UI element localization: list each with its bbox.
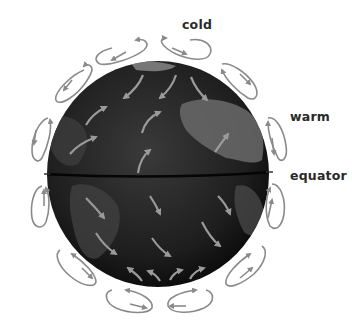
diagram-graphic <box>0 0 352 333</box>
circulation-cell <box>168 290 213 312</box>
circulation-cell <box>268 118 286 161</box>
circulation-cell <box>96 40 147 65</box>
label-equator: equator <box>290 168 347 183</box>
earth-globe <box>44 61 273 287</box>
circulation-cell <box>106 290 152 313</box>
circulation-cell <box>161 38 210 59</box>
label-warm: warm <box>290 109 330 124</box>
circulation-diagram: cold warm equator <box>0 0 352 333</box>
circulation-cell <box>266 184 284 228</box>
label-cold: cold <box>182 17 212 32</box>
circulation-cell <box>31 186 49 227</box>
circulation-cell <box>32 118 51 161</box>
